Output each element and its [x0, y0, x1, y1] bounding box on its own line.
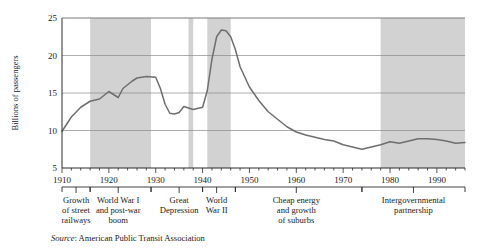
transit-ridership-chart: 5101520251910192019301940195019601970198… — [0, 0, 486, 252]
source-note: Source: American Public Transit Associat… — [51, 233, 205, 243]
transit-ridership-figure: 5101520251910192019301940195019601970198… — [0, 0, 486, 252]
x-tick-label: 1990 — [428, 175, 447, 185]
era-annotation-label: partnership — [394, 205, 433, 215]
x-tick-label: 1950 — [240, 175, 259, 185]
era-bracket — [235, 187, 362, 192]
y-tick-label: 10 — [48, 126, 58, 136]
source-value: : American Public Transit Association — [75, 233, 205, 243]
era-annotation-label: Cheap energy — [273, 195, 321, 205]
y-tick-label: 15 — [48, 88, 58, 98]
era-annotation-label: of street — [62, 205, 91, 215]
era-annotation-label: railways — [61, 215, 91, 225]
x-tick-label: 1970 — [334, 175, 353, 185]
x-tick-label: 1910 — [53, 175, 72, 185]
y-axis-title: Billions of passengers — [10, 55, 20, 130]
source-label: Source — [51, 233, 75, 243]
y-tick-label: 20 — [48, 51, 58, 61]
era-annotation-label: Growth — [63, 195, 90, 205]
era-annotation-label: boom — [108, 215, 128, 225]
era-annotation-label: World — [206, 195, 228, 205]
era-annotation-label: Great — [170, 195, 190, 205]
y-tick-label: 5 — [53, 163, 58, 173]
era-bracket — [151, 187, 203, 192]
x-tick-label: 1930 — [147, 175, 166, 185]
era-annotation-label: Depression — [160, 205, 199, 215]
era-annotation-label: and post-war — [96, 205, 141, 215]
y-tick-label: 25 — [48, 13, 58, 23]
era-annotation-label: War II — [206, 205, 228, 215]
era-annotation-label: Intergovernmental — [382, 195, 446, 205]
x-tick-label: 1960 — [287, 175, 306, 185]
era-bracket — [203, 187, 236, 192]
x-tick-label: 1980 — [381, 175, 400, 185]
era-annotation-label: World War I — [97, 195, 140, 205]
era-annotation-label: of suburbs — [278, 215, 315, 225]
x-tick-label: 1920 — [100, 175, 119, 185]
era-bracket — [90, 187, 151, 192]
x-tick-label: 1940 — [194, 175, 213, 185]
era-annotation-label: and growth — [277, 205, 317, 215]
